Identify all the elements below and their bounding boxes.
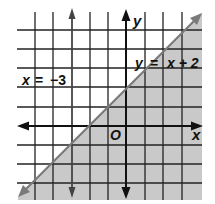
- equation-label-x-minus-3: x = −3: [21, 72, 66, 88]
- svg-text:=: =: [35, 72, 43, 88]
- svg-text:−3: −3: [50, 72, 66, 88]
- origin-label: O: [110, 127, 121, 143]
- svg-text:y: y: [134, 55, 144, 71]
- graph: y x O y = x + 2 x = −3: [0, 0, 215, 204]
- x-axis-label: x: [191, 126, 201, 143]
- y-axis-label: y: [132, 12, 142, 29]
- svg-text:=: =: [150, 55, 158, 71]
- svg-text:x + 2: x + 2: [166, 55, 199, 71]
- svg-text:x: x: [21, 72, 31, 88]
